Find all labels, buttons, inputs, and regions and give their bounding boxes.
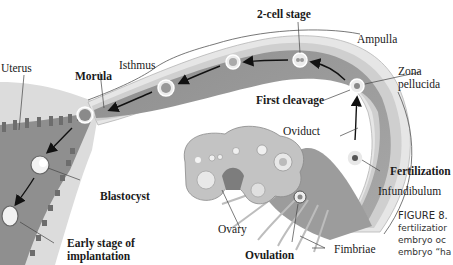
label-two-cell-stage: 2-cell stage — [257, 8, 311, 20]
label-ampulla: Ampulla — [357, 33, 397, 45]
label-morula: Morula — [75, 70, 112, 82]
label-isthmus: Isthmus — [119, 59, 155, 71]
figure-caption-title: FIGURE 8. — [398, 210, 448, 221]
label-early-stage-line2: implantation — [67, 250, 130, 262]
label-first-cleavage: First cleavage — [256, 94, 324, 106]
figure-caption-line2: embryo oc — [398, 235, 446, 246]
label-infundibulum: Infundibulum — [378, 185, 441, 197]
label-ovulation: Ovulation — [245, 249, 294, 261]
figure-caption-line1: fertilizatior — [398, 223, 447, 234]
figure-caption-line3: embryo “ha — [398, 247, 451, 258]
ovary — [184, 126, 303, 204]
implanting-embryo — [2, 206, 18, 226]
label-fimbriae: Fimbriae — [334, 243, 376, 255]
label-ovary: Ovary — [218, 223, 247, 235]
label-early-stage-line1: Early stage of — [67, 237, 135, 249]
diagram-canvas: 2-cell stage Ampulla Uterus Isthmus Moru… — [0, 0, 453, 265]
label-uterus: Uterus — [1, 62, 32, 74]
label-fertilization: Fertilization — [390, 165, 451, 177]
label-oviduct: Oviduct — [283, 125, 320, 137]
label-zona-pellucida-line1: Zona — [398, 65, 422, 77]
label-zona-pellucida-line2: pellucida — [398, 78, 440, 90]
label-blastocyst: Blastocyst — [100, 190, 150, 202]
